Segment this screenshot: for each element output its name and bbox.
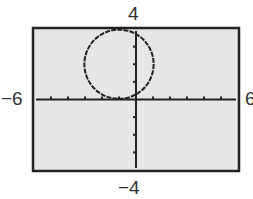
calculator-screen — [0, 0, 253, 199]
xmax-label: 6 — [245, 89, 253, 108]
xmin-label: −6 — [1, 89, 23, 108]
ymax-label: 4 — [128, 4, 139, 23]
ymin-label: −4 — [118, 178, 140, 197]
